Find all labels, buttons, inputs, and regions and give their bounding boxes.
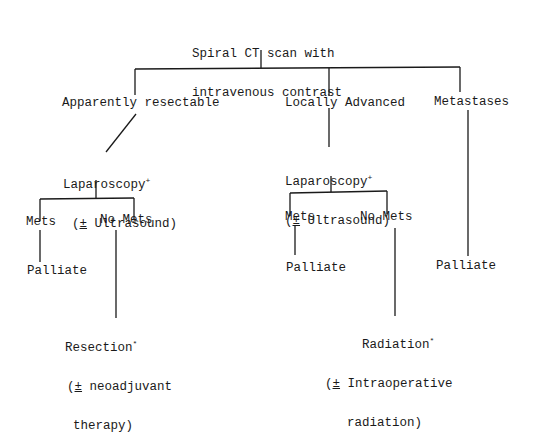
resection-label: Resection [65,341,133,355]
plus-footnote-mark: + [146,176,151,185]
node-mets-right: Mets [285,211,315,224]
plus-minus-symbol: ± [75,380,83,394]
plus-footnote-mark: + [368,173,373,182]
node-palliate-right: Palliate [286,262,346,275]
node-palliate-metastases: Palliate [436,260,496,273]
node-laparoscopy-right: Laparoscopy+ (± Ultrasound) [285,150,390,241]
node-resection: Resection* (± neoadjuvant therapy) [65,316,172,436]
node-apparently-resectable: Apparently resectable [62,97,220,110]
node-mets-left: Mets [26,216,56,229]
radiation-label: Radiation [362,338,430,352]
node-metastases: Metastases [434,96,509,109]
plus-minus-symbol: ± [333,377,341,391]
asterisk-footnote-mark: * [133,339,138,348]
node-no-mets-right: No Mets [360,211,413,224]
node-no-mets-left: No Mets [100,214,153,227]
node-laparoscopy-left: Laparoscopy+ (± Ultrasound) [63,153,177,244]
laparoscopy-left-label: Laparoscopy [63,178,146,192]
node-locally-advanced: Locally Advanced [285,97,405,110]
laparoscopy-right-label: Laparoscopy [285,175,368,189]
root-line-1: Spiral CT scan with [192,48,332,61]
plus-minus-symbol: ± [80,217,88,231]
node-palliate-left: Palliate [27,265,87,278]
asterisk-footnote-mark: * [430,336,435,345]
node-radiation: Radiation* (± Intraoperative radiation) [325,313,453,436]
